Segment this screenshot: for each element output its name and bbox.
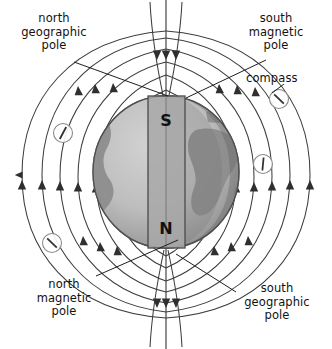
arrow-marker xyxy=(228,242,236,251)
arrow-marker xyxy=(252,87,260,96)
arrow-marker xyxy=(56,181,64,191)
arrow-marker xyxy=(18,180,26,190)
arrow-marker xyxy=(92,84,100,93)
arrow-marker xyxy=(162,50,170,60)
arrow-marker xyxy=(306,180,314,190)
magnet-north-pole-label: N xyxy=(159,219,172,238)
leader-north-geographic-pole xyxy=(74,62,168,96)
arrow-marker xyxy=(80,236,88,245)
arrow-marker xyxy=(153,50,161,60)
label-compass: compass xyxy=(246,72,330,86)
arrow-marker xyxy=(74,182,82,192)
arrow-upper-arc-group xyxy=(75,83,260,96)
arrow-marker xyxy=(172,50,180,60)
arrow-marker xyxy=(250,182,258,192)
label-south-magnetic-pole: south magnetic pole xyxy=(226,12,326,53)
arrow-top-pole-group xyxy=(153,50,180,60)
compass-left-upper xyxy=(54,124,73,143)
arrow-marker xyxy=(162,298,170,308)
label-north-magnetic-pole: north magnetic pole xyxy=(14,278,114,319)
bar-magnet: S N xyxy=(148,96,185,248)
arrow-marker xyxy=(75,86,83,95)
arrow-marker xyxy=(172,298,180,308)
arrow-marker xyxy=(268,181,276,191)
label-south-geographic-pole: south geographic pole xyxy=(228,282,326,323)
magnet-south-pole-label: S xyxy=(160,111,172,130)
arrow-marker xyxy=(286,180,294,190)
arrow-marker xyxy=(38,180,46,190)
arrow-bottom-pole-group xyxy=(153,298,180,308)
compass-right-lower xyxy=(254,155,273,174)
label-north-geographic-pole: north geographic pole xyxy=(6,12,102,53)
arrow-marker xyxy=(97,242,105,251)
arrow-marker xyxy=(245,236,253,245)
magnetic-field-diagram: S N xyxy=(0,0,332,349)
compass-left-lower xyxy=(43,234,62,253)
compass-needle xyxy=(262,158,263,171)
